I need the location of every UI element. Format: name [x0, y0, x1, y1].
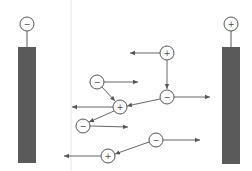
motion-arrows [64, 53, 210, 156]
attraction-link-ion-3-ion-5 [89, 111, 114, 122]
ion-5: − [76, 119, 90, 133]
electrodes: −+ [18, 17, 240, 164]
right-electrode-bar [222, 47, 240, 164]
ion-3: + [113, 100, 127, 114]
terminal-sign: − [24, 20, 31, 29]
ion-7: + [101, 149, 115, 163]
left-electrode-terminal: − [20, 17, 34, 31]
ion-6: − [149, 133, 163, 147]
right-electrode: + [222, 17, 240, 164]
ion-sign: − [164, 93, 171, 102]
attraction-link-ion-6-ion-7 [115, 142, 149, 154]
ion-sign: − [80, 122, 87, 131]
left-electrode: − [18, 17, 36, 163]
ion-sign: − [94, 78, 101, 87]
ion-1: + [160, 46, 174, 60]
left-electrode-bar [18, 47, 36, 163]
motion-arrow-right [90, 126, 128, 127]
ion-sign: + [117, 103, 124, 112]
electrolysis-diagram: −+ +−+−−−+ [0, 0, 252, 171]
ion-4: − [160, 90, 174, 104]
attraction-link-ion-2-ion-3 [102, 87, 115, 101]
terminal-sign: + [228, 20, 235, 29]
right-electrode-terminal: + [224, 17, 238, 31]
attraction-link-ion-4-ion-3 [127, 99, 160, 106]
ion-sign: + [105, 152, 112, 161]
ions: +−+−−−+ [76, 46, 174, 163]
ion-sign: + [164, 49, 171, 58]
ion-sign: − [153, 136, 160, 145]
ion-2: − [90, 75, 104, 89]
